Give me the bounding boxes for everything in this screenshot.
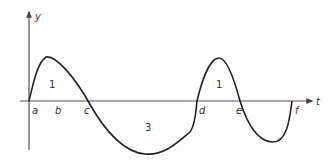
point-label-f: f <box>295 105 300 116</box>
point-label-d: d <box>199 105 206 116</box>
point-label-c: c <box>84 105 90 116</box>
t-axis-label: t <box>316 96 321 107</box>
function-curve <box>29 57 292 154</box>
point-label-e: e <box>236 105 242 116</box>
region-label-d-e: 1 <box>216 79 222 90</box>
region-label-a-c: 1 <box>49 79 55 90</box>
function-graph: y t a b c d e f 1 3 1 <box>0 0 329 163</box>
point-label-a: a <box>32 105 38 116</box>
region-label-c-d: 3 <box>145 122 151 133</box>
y-axis-label: y <box>34 11 42 22</box>
point-label-b: b <box>55 105 61 116</box>
